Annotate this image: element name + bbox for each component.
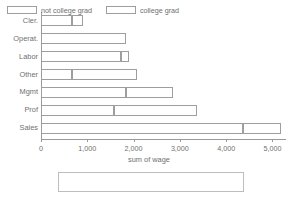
- category-label: Labor: [0, 53, 38, 61]
- bar-row: [41, 51, 291, 62]
- category-label: Other: [0, 71, 38, 79]
- bar-row: [41, 87, 291, 98]
- x-axis-title: sum of wage: [0, 155, 298, 164]
- bar-row: [41, 33, 291, 44]
- legend-swatch: [7, 6, 37, 14]
- category-label: Prof: [0, 106, 38, 114]
- bar-segment: [114, 105, 197, 116]
- category-label: Operat.: [0, 35, 38, 43]
- tick-mark: [272, 139, 273, 142]
- bar-segment: [41, 105, 114, 116]
- tick-mark: [87, 139, 88, 142]
- tick-label: 0: [39, 144, 43, 153]
- bar-row: [41, 69, 291, 80]
- bar-row: [41, 105, 291, 116]
- tick-mark: [134, 139, 135, 142]
- legend: not college gradcollege grad: [0, 0, 186, 20]
- bar-segment: [41, 87, 126, 98]
- legend-swatch: [106, 6, 136, 14]
- bar-segment: [41, 51, 121, 62]
- legend-label: college grad: [140, 6, 179, 15]
- tick-label: 5,000: [263, 144, 281, 153]
- tick-label: 3,000: [171, 144, 189, 153]
- bar-segment: [41, 33, 126, 44]
- category-axis-labels: Cler.Operat.LaborOtherMgmtProfSales: [0, 12, 38, 137]
- legend-label: not college grad: [41, 6, 92, 15]
- bar-segment: [41, 69, 72, 80]
- tick-mark: [226, 139, 227, 142]
- bar-segment: [72, 69, 136, 80]
- bar-row: [41, 123, 291, 134]
- legend-container: [58, 172, 244, 192]
- tick-label: 4,000: [217, 144, 235, 153]
- bar-segment: [121, 51, 129, 62]
- bar-segment: [126, 87, 174, 98]
- category-label: Mgmt: [0, 88, 38, 96]
- legend-item[interactable]: college grad: [106, 6, 179, 15]
- tick-mark: [41, 139, 42, 142]
- bar-segment: [41, 123, 243, 134]
- tick-label: 2,000: [125, 144, 143, 153]
- tick-label: 1,000: [78, 144, 96, 153]
- plot-area: [41, 12, 291, 137]
- category-label: Sales: [0, 124, 38, 132]
- bar-chart: Cler.Operat.LaborOtherMgmtProfSales 01,0…: [0, 0, 298, 200]
- legend-item[interactable]: not college grad: [7, 6, 92, 15]
- tick-mark: [180, 139, 181, 142]
- x-axis-spine: [41, 139, 286, 140]
- bar-segment: [243, 123, 281, 134]
